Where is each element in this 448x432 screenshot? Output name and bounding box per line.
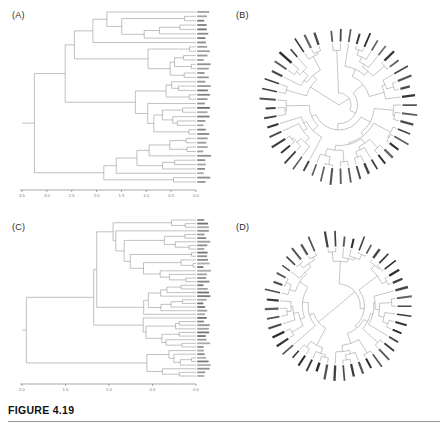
- figure-page: 3.53.02.52.01.51.00.50.0 (A) (B) 2.01.51…: [0, 0, 448, 432]
- panel-a-label: (A): [12, 10, 25, 20]
- svg-text:0.0: 0.0: [193, 193, 199, 198]
- svg-text:3.0: 3.0: [44, 193, 50, 198]
- svg-text:0.5: 0.5: [168, 193, 174, 198]
- panel-a-branches: [22, 12, 196, 182]
- svg-text:1.0: 1.0: [143, 193, 149, 198]
- panel-a: 3.53.02.52.01.51.00.50.0: [0, 0, 224, 210]
- panel-d: [224, 210, 448, 402]
- panel-c-branches: [22, 220, 196, 376]
- panel-c: 2.01.51.00.50.0: [0, 210, 224, 402]
- panel-b-dendrogram: [224, 0, 448, 210]
- panel-b-branches: [277, 43, 401, 167]
- panel-d-dendrogram: [224, 210, 448, 402]
- svg-text:2.0: 2.0: [19, 387, 25, 392]
- svg-text:0.0: 0.0: [193, 387, 199, 392]
- panel-c-tip-labels: [197, 219, 211, 377]
- panel-b: [224, 0, 448, 210]
- caption-divider: [8, 421, 440, 422]
- panel-a-axis: 3.53.02.52.01.51.00.50.0: [19, 190, 199, 198]
- svg-text:2.5: 2.5: [69, 193, 75, 198]
- svg-text:1.0: 1.0: [106, 387, 112, 392]
- panel-a-tip-labels: [197, 11, 211, 183]
- panel-a-dendrogram: 3.53.02.52.01.51.00.50.0: [0, 0, 224, 210]
- svg-text:3.5: 3.5: [19, 193, 25, 198]
- figure-caption: FIGURE 4.19: [8, 404, 74, 416]
- panel-c-dendrogram: 2.01.51.00.50.0: [0, 210, 224, 402]
- panel-d-branches: [280, 248, 396, 364]
- svg-text:1.5: 1.5: [119, 193, 125, 198]
- panel-d-label: (D): [236, 222, 249, 232]
- panel-c-axis: 2.01.51.00.50.0: [19, 384, 199, 392]
- svg-text:0.5: 0.5: [150, 387, 156, 392]
- svg-text:1.5: 1.5: [63, 387, 69, 392]
- panel-c-label: (C): [12, 222, 25, 232]
- svg-text:2.0: 2.0: [94, 193, 100, 198]
- panel-b-label: (B): [236, 10, 249, 20]
